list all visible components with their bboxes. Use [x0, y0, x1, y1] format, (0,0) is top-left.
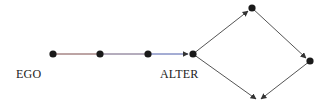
node-top — [248, 4, 255, 11]
edge-right-bottom — [261, 61, 310, 99]
node-alter — [189, 50, 196, 57]
node-3 — [144, 50, 151, 57]
edge-alter-top — [193, 11, 248, 54]
edges — [53, 8, 310, 99]
alter-label: ALTER — [160, 67, 199, 82]
node-ego — [49, 50, 56, 57]
ego-label: EGO — [16, 67, 41, 82]
node-right — [306, 57, 313, 64]
edge-top-right — [252, 8, 306, 58]
nodes — [49, 4, 313, 64]
edge-alter-bottom — [193, 54, 256, 99]
node-2 — [96, 50, 103, 57]
network-diagram — [0, 0, 330, 103]
